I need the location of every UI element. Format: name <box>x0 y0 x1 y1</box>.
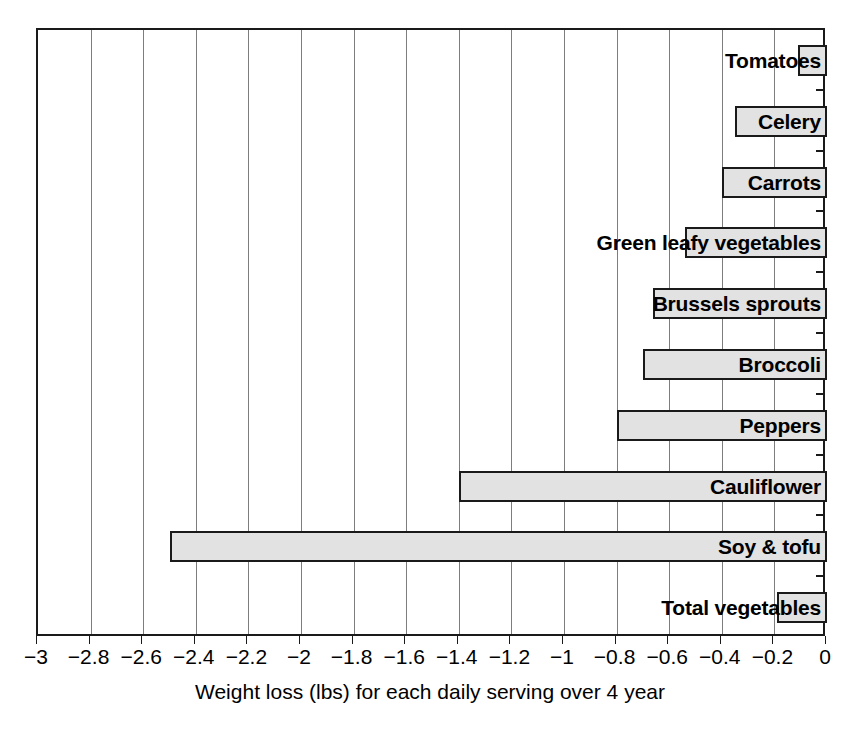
x-tick <box>457 636 458 644</box>
y-tick <box>816 454 825 456</box>
bar-chart: TomatoesCeleryCarrotsGreen leafy vegetab… <box>0 0 860 734</box>
y-tick <box>816 332 825 334</box>
bar-row: Brussels sprouts <box>38 288 823 319</box>
x-tick-label: 0 <box>790 645 860 669</box>
x-tick <box>404 636 405 644</box>
bar <box>170 531 828 562</box>
x-tick <box>36 636 37 644</box>
x-axis-title: Weight loss (lbs) for each daily serving… <box>0 680 860 704</box>
bar <box>777 592 827 623</box>
bar-row: Carrots <box>38 167 823 198</box>
x-tick <box>352 636 353 644</box>
x-tick <box>825 636 826 644</box>
bar <box>617 410 827 441</box>
y-tick <box>816 150 825 152</box>
bar <box>735 106 827 137</box>
bar-row: Peppers <box>38 410 823 441</box>
bar-row: Celery <box>38 106 823 137</box>
bar-row: Cauliflower <box>38 471 823 502</box>
bar <box>798 45 827 76</box>
bar <box>685 227 827 258</box>
bar-row: Broccoli <box>38 349 823 380</box>
bar-row: Soy & tofu <box>38 531 823 562</box>
bar-row: Green leafy vegetables <box>38 227 823 258</box>
x-tick <box>299 636 300 644</box>
bar-row: Tomatoes <box>38 45 823 76</box>
x-tick <box>246 636 247 644</box>
x-tick <box>194 636 195 644</box>
bar <box>653 288 827 319</box>
x-tick <box>562 636 563 644</box>
x-tick <box>89 636 90 644</box>
x-tick <box>720 636 721 644</box>
y-tick <box>816 271 825 273</box>
bar <box>722 167 827 198</box>
y-tick <box>816 575 825 577</box>
bar <box>643 349 827 380</box>
x-tick <box>141 636 142 644</box>
x-tick <box>615 636 616 644</box>
x-tick <box>667 636 668 644</box>
y-tick <box>816 89 825 91</box>
plot-area: TomatoesCeleryCarrotsGreen leafy vegetab… <box>36 28 825 636</box>
y-tick <box>816 514 825 516</box>
bar-row: Total vegetables <box>38 592 823 623</box>
y-tick <box>816 210 825 212</box>
x-tick <box>509 636 510 644</box>
bar <box>459 471 827 502</box>
y-tick <box>816 393 825 395</box>
x-tick <box>772 636 773 644</box>
